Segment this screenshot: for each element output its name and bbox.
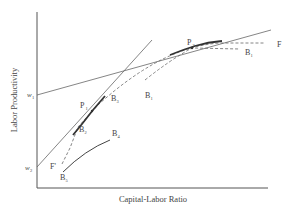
svg-text:2: 2 [193, 43, 195, 48]
svg-text:1: 1 [32, 95, 34, 100]
label-B5: B 5 [60, 173, 69, 183]
productivity-diagram: Capital-Labor Ratio Labor Productivity w… [0, 0, 294, 211]
label-P1: P 1 [80, 101, 88, 111]
y-axis-label: Labor Productivity [9, 67, 19, 132]
technique-curve-B1 [145, 48, 240, 80]
label-F-prime: F' [50, 162, 56, 171]
svg-text:F: F [277, 40, 282, 49]
svg-text:P: P [187, 38, 192, 47]
technique-curve-B5 [63, 140, 110, 172]
svg-text:P: P [80, 101, 85, 110]
svg-text:1: 1 [86, 106, 88, 111]
svg-text:1: 1 [151, 96, 153, 101]
label-P2: P 2 [187, 38, 195, 48]
svg-text:3: 3 [117, 99, 120, 104]
frontier-curve-F [62, 43, 265, 164]
label-B3: B 3 [111, 94, 120, 104]
svg-text:1: 1 [251, 53, 253, 58]
label-B1-end: B 1 [245, 48, 253, 58]
label-B1-start: B 1 [145, 91, 153, 101]
label-F: F [277, 40, 282, 49]
svg-text:F': F' [50, 162, 56, 171]
svg-text:2: 2 [85, 130, 87, 135]
wage-line-w1 [37, 30, 271, 95]
svg-text:2: 2 [30, 168, 32, 173]
tick-w2: w 2 [25, 164, 32, 173]
label-B4: B 4 [112, 129, 121, 139]
label-B2: B 2 [79, 125, 87, 135]
tick-w1: w 1 [27, 91, 34, 100]
x-axis-label: Capital-Labor Ratio [119, 194, 187, 204]
svg-text:4: 4 [118, 134, 121, 139]
svg-text:5: 5 [66, 178, 69, 183]
point-P1 [91, 110, 93, 112]
frontier-segment-P1 [73, 96, 105, 135]
